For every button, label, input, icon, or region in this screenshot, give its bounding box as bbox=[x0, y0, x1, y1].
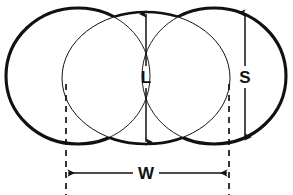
dimension-W: W bbox=[68, 164, 227, 183]
diagram-canvas: L S W bbox=[0, 0, 293, 195]
dimension-W-label: W bbox=[138, 164, 155, 183]
dimension-diagram: L S W bbox=[0, 0, 293, 195]
dimension-S-label: S bbox=[239, 68, 250, 87]
dimension-S: S bbox=[239, 13, 250, 137]
dimension-L-label: L bbox=[141, 68, 151, 87]
